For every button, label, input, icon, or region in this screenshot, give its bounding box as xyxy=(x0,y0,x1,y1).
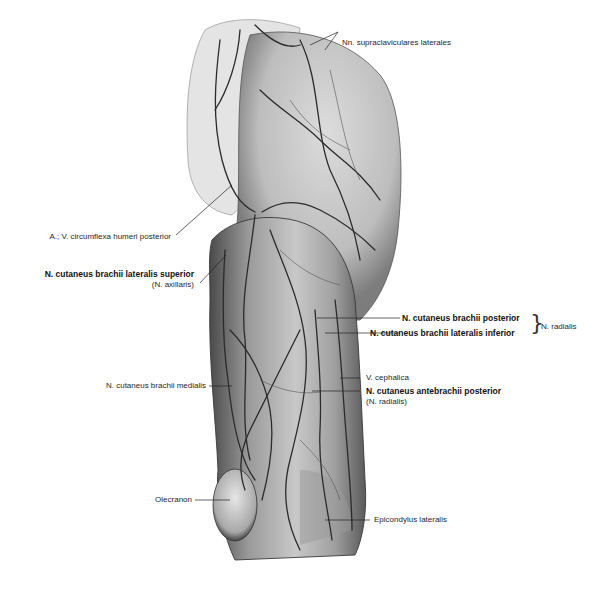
label-n-cutaneus-brachii-lateralis-inferior: N. cutaneus brachii lateralis inferior xyxy=(370,328,515,338)
arm-illustration xyxy=(0,0,604,603)
label-n-radialis-group: N. radialis xyxy=(541,322,577,332)
label-n-axillaris: (N. axillaris) xyxy=(152,280,194,290)
olecranon-bulge xyxy=(213,469,257,541)
label-n-radialis-sub: (N. radialis) xyxy=(366,397,407,407)
label-n-cutaneus-brachii-posterior: N. cutaneus brachii posterior xyxy=(402,313,520,323)
label-v-cephalica: V. cephalica xyxy=(366,373,409,383)
label-circumflexa-humeri-posterior: A.; V. circumflexa humeri posterior xyxy=(49,232,171,242)
label-nn-supraclaviculares-laterales: Nn. supraclaviculares laterales xyxy=(342,38,451,48)
label-n-cutaneus-brachii-medialis: N. cutaneus brachii medialis xyxy=(106,381,206,391)
label-n-cutaneus-brachii-lateralis-superior: N. cutaneus brachii lateralis superior xyxy=(45,269,194,279)
label-olecranon: Olecranon xyxy=(155,495,192,505)
label-n-cutaneus-antebrachii-posterior: N. cutaneus antebrachii posterior xyxy=(366,386,501,396)
label-epicondylus-lateralis: Epicondylus lateralis xyxy=(374,515,447,525)
